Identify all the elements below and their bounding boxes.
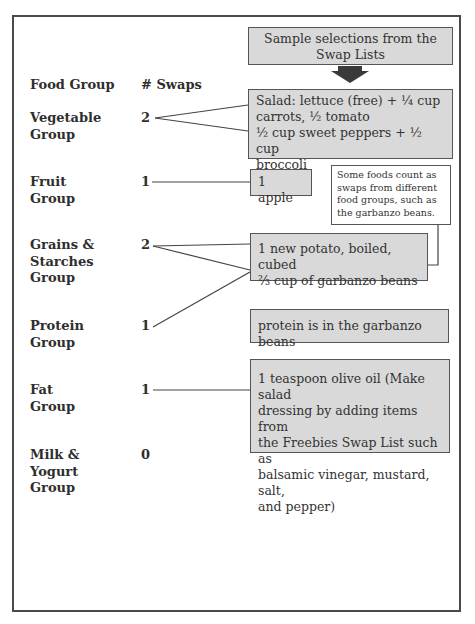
selection-fruit: 1 apple — [250, 169, 312, 196]
selection-protein: protein is in the garbanzo beans — [250, 309, 449, 343]
swaps-protein: 1 — [141, 318, 150, 333]
group-fat: Fat Group — [30, 382, 75, 415]
selection-grains: 1 new potato, boiled, cubed ⅔ cup of gar… — [250, 233, 428, 281]
swaps-grains: 2 — [141, 237, 150, 252]
swaps-fat: 1 — [141, 382, 150, 397]
note-box: Some foods count as swaps from different… — [331, 165, 451, 225]
group-protein: Protein Group — [30, 318, 84, 351]
group-fruit: Fruit Group — [30, 174, 75, 207]
title-text: Sample selections from the Swap Lists — [255, 31, 446, 63]
header-swaps: # Swaps — [141, 77, 202, 92]
header-food-group: Food Group — [30, 77, 115, 92]
swaps-vegetable: 2 — [141, 110, 150, 125]
selection-vegetable: Salad: lettuce (free) + ¼ cup carrots, ½… — [248, 89, 453, 159]
down-arrow-icon — [331, 66, 369, 83]
selection-fat: 1 teaspoon olive oil (Make salad dressin… — [250, 359, 450, 453]
group-milk-yogurt: Milk & Yogurt Group — [30, 447, 80, 497]
swaps-fruit: 1 — [141, 174, 150, 189]
group-grains: Grains & Starches Group — [30, 237, 94, 287]
group-vegetable: Vegetable Group — [30, 110, 101, 143]
swaps-milk-yogurt: 0 — [141, 447, 150, 462]
title-box: Sample selections from the Swap Lists — [248, 27, 453, 65]
